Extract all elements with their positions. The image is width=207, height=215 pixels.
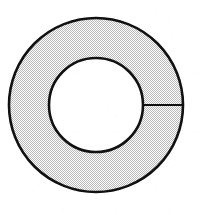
annulus-diagram [0,0,207,215]
figure-canvas [0,0,207,215]
inner-circle-outline [49,58,143,152]
